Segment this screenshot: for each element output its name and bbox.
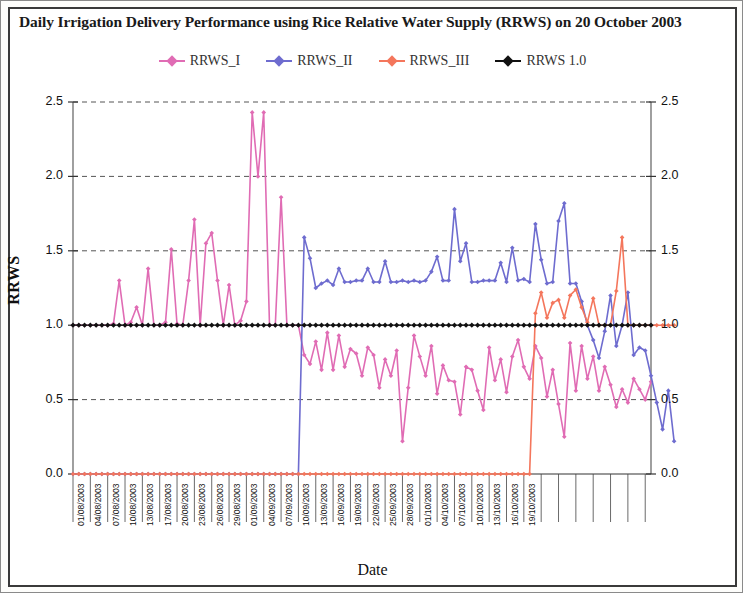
y-tick-label-left: 2.0: [33, 168, 63, 182]
x-tick-label: 16/09/2003: [336, 483, 346, 526]
plot-area: 0.00.51.01.52.02.5 0.00.51.01.52.02.5 01…: [1, 1, 743, 593]
x-tick-label: 07/09/2003: [284, 483, 294, 526]
x-tick-label: 07/10/2003: [457, 483, 467, 526]
x-tick-label: 22/09/2003: [371, 483, 381, 526]
x-tick-label: 10/10/2003: [475, 483, 485, 526]
x-tick-label: 10/08/2003: [128, 483, 138, 526]
x-tick-label: 01/08/2003: [76, 483, 86, 526]
x-tick-label: 13/09/2003: [319, 483, 329, 526]
x-tick-label: 01/09/2003: [249, 483, 259, 526]
x-tick-label: 13/08/2003: [145, 483, 155, 526]
y-tick-label-right: 1.0: [661, 317, 691, 331]
y-tick-label-right: 1.5: [661, 243, 691, 257]
x-tick-label: 13/10/2003: [492, 483, 502, 526]
y-tick-label-right: 0.0: [661, 466, 691, 480]
x-tick-label: 16/10/2003: [510, 483, 520, 526]
y-tick-label-right: 0.5: [661, 392, 691, 406]
y-tick-label-left: 0.0: [33, 466, 63, 480]
y-tick-label-right: 2.0: [661, 168, 691, 182]
x-tick-label: 29/08/2003: [232, 483, 242, 526]
y-tick-label-right: 2.5: [661, 94, 691, 108]
x-tick-label: 04/09/2003: [267, 483, 277, 526]
x-tick-label: 26/08/2003: [215, 483, 225, 526]
y-tick-label-left: 1.5: [33, 243, 63, 257]
x-tick-label: 04/10/2003: [440, 483, 450, 526]
x-tick-label: 23/08/2003: [197, 483, 207, 526]
x-tick-label: 19/09/2003: [353, 483, 363, 526]
chart-screenshot: Daily Irrigation Delivery Performance us…: [0, 0, 743, 593]
x-tick-label: 19/10/2003: [527, 483, 537, 526]
x-tick-label: 25/09/2003: [388, 483, 398, 526]
x-tick-label: 17/08/2003: [163, 483, 173, 526]
x-tick-label: 04/08/2003: [93, 483, 103, 526]
x-tick-label: 07/08/2003: [111, 483, 121, 526]
x-tick-label: 10/09/2003: [301, 483, 311, 526]
x-tick-label: 28/09/2003: [405, 483, 415, 526]
x-tick-label: 20/08/2003: [180, 483, 190, 526]
y-tick-label-left: 0.5: [33, 392, 63, 406]
x-tick-label: 01/10/2003: [423, 483, 433, 526]
y-tick-label-left: 1.0: [33, 317, 63, 331]
y-tick-label-left: 2.5: [33, 94, 63, 108]
